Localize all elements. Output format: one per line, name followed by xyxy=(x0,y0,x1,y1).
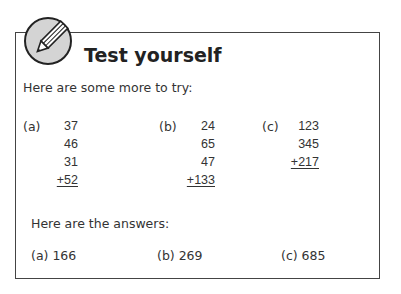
problem-a-last-addend: +52 xyxy=(48,173,78,187)
answer-b: (b) 269 xyxy=(157,248,203,263)
problem-a-addend: 37 xyxy=(48,119,78,133)
problem-a-addend: 31 xyxy=(48,155,78,169)
problem-b-last-addend: +133 xyxy=(180,173,215,187)
answers-heading: Here are the answers: xyxy=(31,216,169,231)
answer-a: (a) 166 xyxy=(31,248,76,263)
problem-c-last-addend: +217 xyxy=(280,155,319,169)
page-title: Test yourself xyxy=(84,44,222,66)
problem-a-addend: 46 xyxy=(48,137,78,151)
pencil-icon xyxy=(23,16,73,66)
problem-c-addend: 123 xyxy=(280,119,319,133)
problem-b-addend: 65 xyxy=(180,137,215,151)
problem-c-label: (c) xyxy=(262,119,279,134)
problem-b-addend: 47 xyxy=(180,155,215,169)
problem-b-label: (b) xyxy=(159,119,177,134)
problem-c-addend: 345 xyxy=(280,137,319,151)
answer-c: (c) 685 xyxy=(281,248,325,263)
intro-text: Here are some more to try: xyxy=(23,80,192,95)
problem-a-label: (a) xyxy=(23,119,40,134)
problem-b-addend: 24 xyxy=(180,119,215,133)
